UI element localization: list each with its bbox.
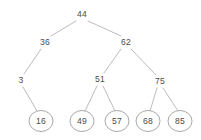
node-label-36: 36 [40,37,50,47]
edges-group [23,21,178,111]
binary-tree-figure: 443662351751649576885 [0,0,201,140]
tree-node-3[interactable]: 3 [19,75,24,85]
tree-node-68[interactable]: 68 [136,111,160,132]
node-label-57: 57 [112,116,122,126]
tree-node-57[interactable]: 57 [105,111,129,132]
tree-edge-n75-n68 [150,88,157,111]
tree-node-49[interactable]: 49 [70,111,94,132]
node-label-62: 62 [121,37,131,47]
tree-node-16[interactable]: 16 [29,111,53,132]
tree-edge-n44-n62 [88,21,121,36]
node-label-68: 68 [143,116,153,126]
tree-edge-n62-n75 [131,49,156,75]
node-label-44: 44 [77,9,87,19]
tree-edge-n51-n57 [103,86,115,111]
tree-node-51[interactable]: 51 [95,74,105,84]
node-label-49: 49 [77,116,87,126]
tree-edge-n75-n85 [163,88,178,111]
tree-canvas: 443662351751649576885 [0,0,201,140]
tree-edge-n36-n3 [24,49,41,74]
tree-node-36[interactable]: 36 [40,37,50,47]
node-label-3: 3 [19,75,24,85]
tree-edge-n3-n16 [23,87,37,111]
tree-node-75[interactable]: 75 [155,76,165,86]
node-label-51: 51 [95,74,105,84]
tree-edge-n51-n49 [85,86,97,111]
tree-node-44[interactable]: 44 [77,9,87,19]
node-label-75: 75 [155,76,165,86]
node-label-16: 16 [36,116,46,126]
tree-node-62[interactable]: 62 [121,37,131,47]
tree-edge-n62-n51 [104,49,121,73]
node-label-85: 85 [175,116,185,126]
tree-node-85[interactable]: 85 [168,111,192,132]
tree-edge-n44-n36 [51,21,76,36]
nodes-group: 443662351751649576885 [19,9,192,132]
